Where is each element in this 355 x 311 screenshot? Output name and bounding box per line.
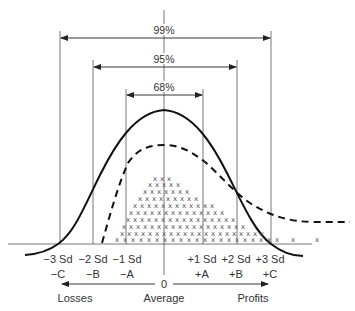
svg-text:x: x	[152, 195, 156, 203]
svg-text:x: x	[120, 230, 124, 238]
svg-text:x: x	[227, 223, 231, 231]
svg-text:x: x	[220, 223, 224, 231]
svg-text:x: x	[150, 209, 154, 217]
svg-text:x: x	[234, 223, 238, 231]
svg-text:x: x	[176, 230, 180, 238]
svg-text:x: x	[154, 202, 158, 210]
svg-text:x: x	[199, 209, 203, 217]
svg-text:x: x	[204, 230, 208, 238]
svg-text:x: x	[173, 195, 177, 203]
svg-text:x: x	[157, 188, 161, 196]
svg-text:x: x	[187, 195, 191, 203]
svg-text:x: x	[143, 209, 147, 217]
svg-text:x: x	[197, 230, 201, 238]
svg-text:x: x	[189, 202, 193, 210]
svg-text:x: x	[315, 236, 319, 244]
svg-text:x: x	[140, 216, 144, 224]
svg-text:x: x	[225, 230, 229, 238]
sd-label-pos2: +2 Sd	[221, 253, 250, 265]
svg-text:x: x	[213, 209, 217, 217]
svg-text:x: x	[192, 209, 196, 217]
svg-text:x: x	[133, 216, 137, 224]
interval-68-label: 68%	[153, 81, 174, 93]
sd-label-pos3: +3 Sd	[255, 253, 284, 265]
letter-label-negB: −B	[86, 268, 100, 280]
svg-text:x: x	[140, 202, 144, 210]
svg-text:x: x	[164, 223, 168, 231]
svg-text:x: x	[194, 195, 198, 203]
svg-text:x: x	[190, 230, 194, 238]
profits-label: Profits	[237, 292, 269, 304]
svg-text:x: x	[127, 230, 131, 238]
svg-text:x: x	[167, 175, 171, 183]
svg-text:x: x	[231, 216, 235, 224]
svg-text:x: x	[155, 230, 159, 238]
sd-label-neg3: −3 Sd	[43, 253, 72, 265]
svg-text:x: x	[147, 202, 151, 210]
svg-text:x: x	[175, 202, 179, 210]
letter-label-posC: +C	[263, 268, 277, 280]
svg-text:x: x	[147, 216, 151, 224]
svg-text:x: x	[129, 223, 133, 231]
svg-text:x: x	[183, 230, 187, 238]
svg-text:x: x	[148, 181, 152, 189]
letter-label-negC: −C	[51, 268, 65, 280]
distribution-diagram: 99% 95% 68% xxxxxxxxxxxxxxxxxxxxxxxxxxxx…	[0, 0, 355, 311]
losses-label: Losses	[58, 292, 93, 304]
svg-text:x: x	[220, 209, 224, 217]
svg-text:x: x	[176, 181, 180, 189]
svg-text:x: x	[143, 188, 147, 196]
svg-text:x: x	[157, 209, 161, 217]
svg-text:x: x	[145, 195, 149, 203]
svg-text:x: x	[153, 175, 157, 183]
svg-text:x: x	[213, 223, 217, 231]
svg-text:x: x	[138, 195, 142, 203]
svg-text:x: x	[203, 216, 207, 224]
sd-label-neg2: −2 Sd	[78, 253, 107, 265]
svg-text:x: x	[141, 230, 145, 238]
svg-text:x: x	[168, 216, 172, 224]
observed-data-markers: xxxxxxxxxxxxxxxxxxxxxxxxxxxxxxxxxxxxxxxx…	[115, 175, 319, 244]
svg-text:x: x	[134, 230, 138, 238]
svg-text:x: x	[175, 216, 179, 224]
svg-text:x: x	[217, 216, 221, 224]
svg-text:x: x	[246, 230, 250, 238]
svg-text:x: x	[161, 202, 165, 210]
svg-text:x: x	[122, 223, 126, 231]
svg-text:x: x	[260, 230, 264, 238]
letter-label-posA: +A	[195, 268, 209, 280]
svg-text:x: x	[182, 216, 186, 224]
svg-text:x: x	[291, 236, 295, 244]
svg-text:x: x	[218, 230, 222, 238]
sd-label-pos1: +1 Sd	[187, 253, 216, 265]
average-label: Average	[144, 292, 185, 304]
svg-text:x: x	[157, 223, 161, 231]
svg-text:x: x	[185, 209, 189, 217]
svg-text:x: x	[196, 216, 200, 224]
svg-text:x: x	[164, 209, 168, 217]
svg-text:x: x	[241, 223, 245, 231]
svg-text:x: x	[178, 188, 182, 196]
svg-text:x: x	[160, 175, 164, 183]
svg-text:x: x	[203, 202, 207, 210]
svg-text:x: x	[275, 236, 279, 244]
svg-text:x: x	[185, 188, 189, 196]
svg-text:x: x	[171, 209, 175, 217]
svg-text:x: x	[159, 195, 163, 203]
svg-text:x: x	[210, 202, 214, 210]
letter-label-posB: +B	[229, 268, 243, 280]
svg-text:x: x	[178, 223, 182, 231]
svg-text:x: x	[196, 202, 200, 210]
svg-text:x: x	[210, 216, 214, 224]
svg-text:x: x	[232, 230, 236, 238]
svg-text:x: x	[129, 209, 133, 217]
svg-text:x: x	[166, 195, 170, 203]
svg-text:x: x	[267, 236, 271, 244]
svg-text:x: x	[148, 230, 152, 238]
svg-text:x: x	[189, 216, 193, 224]
svg-text:x: x	[169, 230, 173, 238]
svg-text:x: x	[143, 223, 147, 231]
svg-text:x: x	[164, 188, 168, 196]
svg-text:x: x	[150, 188, 154, 196]
svg-text:x: x	[126, 216, 130, 224]
